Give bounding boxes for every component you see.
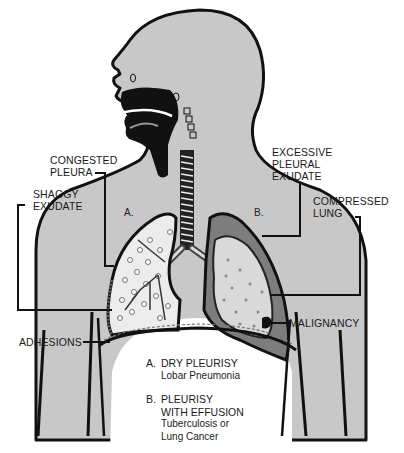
legend-item-b: B. PLEURISY WITH EFFUSION Tuberculosis o… (146, 393, 244, 443)
label-congested-pleura: CONGESTED PLEURA (50, 154, 117, 178)
zone-label-a: A. (124, 207, 133, 218)
legend-key-b: B. (146, 393, 161, 443)
legend-item-a: A. DRY PLEURISY Lobar Pneumonia (146, 357, 244, 382)
legend-title-b: PLEURISY WITH EFFUSION (161, 393, 244, 418)
legend-subtitle-b: Tuberculosis or Lung Cancer (161, 418, 244, 443)
label-compressed-lung: COMPRESSED LUNG (313, 195, 389, 219)
label-adhesions: ADHESIONS (19, 336, 82, 348)
label-shaggy-exudate: SHAGGY EXUDATE (33, 188, 83, 212)
zone-label-b: B. (254, 207, 263, 218)
label-malignancy: MALIGNANCY (289, 317, 359, 329)
legend-key-a: A. (146, 357, 161, 382)
legend: A. DRY PLEURISY Lobar Pneumonia B. PLEUR… (146, 357, 244, 443)
legend-subtitle-a: Lobar Pneumonia (161, 370, 240, 383)
pleurisy-diagram: CONGESTED PLEURA SHAGGY EXUDATE EXCESSIV… (0, 0, 404, 453)
label-excessive-pleural-exudate: EXCESSIVE PLEURAL EXUDATE (272, 146, 332, 182)
trachea (180, 150, 194, 250)
legend-title-a: DRY PLEURISY (161, 357, 240, 370)
